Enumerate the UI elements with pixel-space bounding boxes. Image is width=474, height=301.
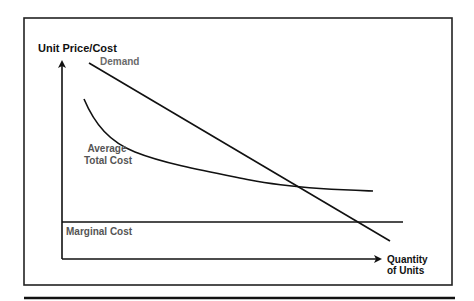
x-axis-label-line2: of Units (387, 265, 425, 276)
cost-demand-diagram: Unit Price/Cost Demand Average Total Cos… (0, 0, 474, 301)
x-axis-label-line1: Quantity (387, 254, 428, 265)
average-total-cost-label-line1: Average (87, 143, 127, 154)
y-axis-label: Unit Price/Cost (38, 42, 117, 54)
demand-label: Demand (100, 56, 139, 67)
marginal-cost-label: Marginal Cost (66, 226, 133, 237)
average-total-cost-label-line2: Total Cost (84, 155, 133, 166)
